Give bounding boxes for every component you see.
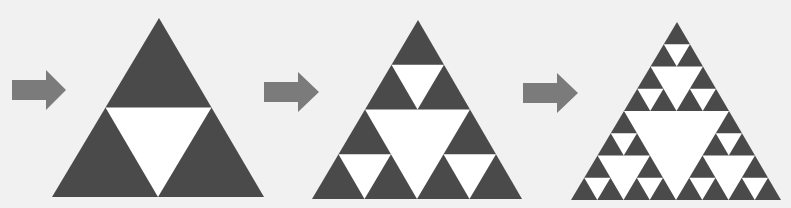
triangles <box>52 18 781 200</box>
sierpinski-diagram <box>0 0 791 208</box>
